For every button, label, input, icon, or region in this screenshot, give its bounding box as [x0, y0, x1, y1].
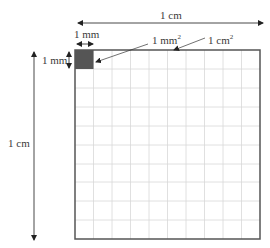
- mm-width-label: 1 mm: [74, 29, 99, 40]
- filled-mm-square: [75, 50, 94, 69]
- mm-height-label: 1 mm: [42, 55, 67, 66]
- cm2-label: 1 cm2: [208, 35, 233, 46]
- mm2-pointer-arrow: [96, 44, 148, 62]
- top-cm-label: 1 cm: [160, 10, 182, 21]
- left-cm-label: 1 cm: [8, 138, 30, 149]
- grid-lines: [75, 50, 260, 239]
- mm2-label: 1 mm2: [152, 35, 181, 46]
